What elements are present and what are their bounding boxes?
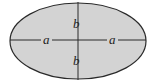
label-b-top: b xyxy=(73,17,80,30)
label-b-bottom: b xyxy=(73,54,80,67)
ellipse-diagram xyxy=(0,0,161,82)
label-a-right: a xyxy=(107,33,118,46)
label-a-left: a xyxy=(41,33,52,46)
